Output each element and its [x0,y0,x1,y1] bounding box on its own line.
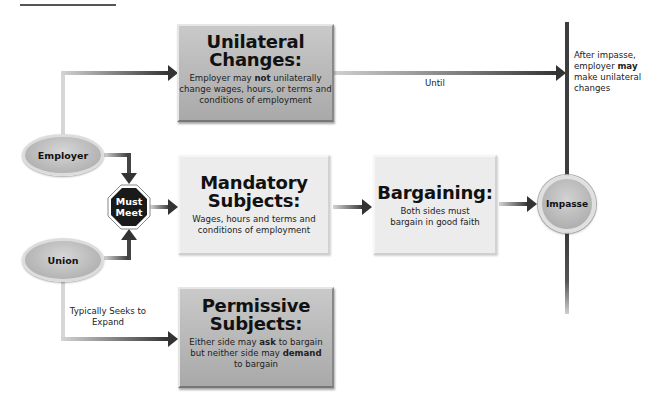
arrowhead-bar [556,65,566,81]
permissive-title-2: Subjects: [180,315,332,333]
permissive-subjects-box: Permissive Subjects: Either side may ask… [178,287,334,388]
until-label: Until [425,78,445,89]
unilateral-changes-box: Unilateral Changes: Employer may not uni… [177,24,334,122]
vertical-bar-top [565,22,569,176]
impasse-node: Impasse [538,175,596,233]
mandatory-title-2: Subjects: [180,192,328,210]
arrowhead-permissive [168,331,178,347]
must-meet-node: Must Meet [108,196,150,218]
unilateral-body: Employer may not unilaterally change wag… [179,73,332,106]
employer-node: Employer [22,134,104,176]
bargaining-box: Bargaining: Both sides must bargain in g… [373,155,497,255]
must-meet-line2: Meet [108,207,150,218]
vertical-bar-bottom [565,232,569,314]
typically-seeks-label: Typically Seeks to Expand [68,306,148,328]
until-line [334,71,557,75]
permissive-body: Either side may ask to bargain but neith… [180,337,332,370]
must-meet-line1: Must [108,196,150,207]
employer-label: Employer [38,150,88,161]
after-impasse-label: After impasse, employer may make unilate… [574,50,654,94]
impasse-label: Impasse [546,199,588,209]
mandatory-subjects-box: Mandatory Subjects: Wages, hours and ter… [178,155,330,255]
employer-up-line [61,72,65,136]
bargaining-title: Bargaining: [375,184,495,202]
union-label: Union [47,255,78,266]
union-node: Union [22,238,104,282]
mandatory-body: Wages, hours and terms and conditions of… [180,214,328,236]
employer-to-unilateral-line [61,71,169,75]
arrowhead-must-meet-top [121,173,137,184]
arrowhead-must-meet-bottom [121,229,137,240]
bargaining-body: Both sides must bargain in good faith [375,206,495,228]
unilateral-title-2: Changes: [179,51,332,69]
